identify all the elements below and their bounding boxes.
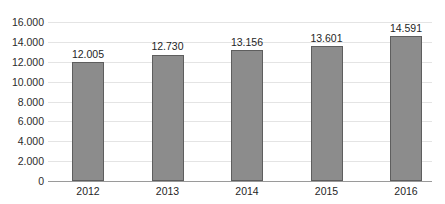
y-axis-tick-label: 16.000: [0, 17, 44, 28]
y-axis-tick-label: 12.000: [0, 57, 44, 68]
y-axis-tick-label: 14.000: [0, 37, 44, 48]
y-axis-tick-label: 0: [0, 176, 44, 187]
bar: [231, 50, 263, 181]
bar: [152, 55, 184, 182]
bar: [311, 46, 343, 181]
y-axis: 02.0004.0006.0008.00010.00012.00014.0001…: [0, 0, 44, 204]
y-axis-tick-label: 4.000: [0, 136, 44, 147]
bar-value-label: 14.591: [371, 23, 441, 34]
y-axis-tick-label: 6.000: [0, 116, 44, 127]
x-axis-tick-label: 2016: [371, 186, 441, 197]
bar-value-label: 12.005: [53, 49, 123, 60]
bar-value-label: 13.156: [212, 37, 282, 48]
x-axis-line: [48, 181, 432, 182]
y-axis-tick-label: 8.000: [0, 96, 44, 107]
x-axis-tick-label: 2014: [212, 186, 282, 197]
bar-value-label: 13.601: [292, 33, 362, 44]
bar: [72, 62, 104, 181]
y-axis-tick-label: 10.000: [0, 76, 44, 87]
y-axis-tick-label: 2.000: [0, 156, 44, 167]
bar-chart: 02.0004.0006.0008.00010.00012.00014.0001…: [0, 0, 445, 204]
bar-value-label: 12.730: [133, 41, 203, 52]
x-axis-tick-label: 2015: [292, 186, 362, 197]
x-axis-tick-label: 2013: [133, 186, 203, 197]
x-axis-tick-label: 2012: [53, 186, 123, 197]
bar: [390, 36, 422, 181]
